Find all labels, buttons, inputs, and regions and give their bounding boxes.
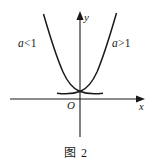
origin-label: O <box>67 100 75 111</box>
x-axis-label: x <box>139 102 144 113</box>
plot-area <box>0 0 152 140</box>
y-axis-label: y <box>84 12 89 23</box>
figure-caption: 图 2 <box>0 143 152 161</box>
annotation-right-value: 1 <box>125 37 131 49</box>
annotation-a-greater-than-one: a>1 <box>112 38 131 50</box>
y-axis-arrow-icon <box>76 11 83 20</box>
curve-a-greater-than-one <box>57 13 117 94</box>
annotation-left-relation: < <box>24 37 31 49</box>
annotation-right-relation: > <box>118 37 125 49</box>
figure-container: a<1 a>1 O y x 图 2 <box>0 0 152 167</box>
annotation-left-value: 1 <box>31 37 37 49</box>
annotation-a-less-than-one: a<1 <box>18 38 37 50</box>
coordinate-plot <box>0 0 152 140</box>
curve-a-less-than-one <box>44 14 104 94</box>
